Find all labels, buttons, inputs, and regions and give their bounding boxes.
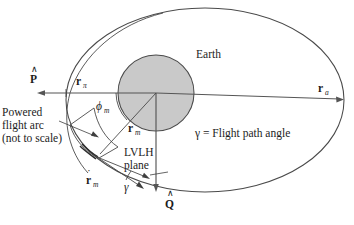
p-hat-label: P (30, 73, 37, 85)
lvlh-line1: LVLH (124, 146, 154, 158)
rdot-m-label: r (86, 174, 91, 186)
flight-path-angle-legend: γ = Flight path angle (194, 127, 290, 140)
powered-flight-line2: flight arc (2, 119, 44, 132)
r-apogee-label: r (318, 82, 323, 94)
apogee-arrowhead (336, 97, 344, 103)
perigee-arrowhead (37, 90, 45, 96)
q-hat-caret: ∧ (167, 188, 174, 198)
lvlh-leader-line (150, 172, 168, 175)
rdot-m-subscript: m (93, 180, 99, 189)
q-hat-label: Q (165, 198, 174, 210)
phi-m-subscript: m (104, 106, 110, 115)
powered-arc-leader-arrowhead (91, 131, 99, 137)
diagram-svg: Earth ∧ P ∧ Q r π r a r m ˙ r m ϕ m γ Po… (0, 0, 354, 225)
orbital-geometry-figure: Earth ∧ P ∧ Q r π r a r m ˙ r m ϕ m γ Po… (0, 0, 354, 225)
powered-flight-arc-2 (80, 146, 96, 159)
earth-label: Earth (196, 48, 221, 60)
powered-flight-line1: Powered (2, 106, 42, 118)
r-perigee-subscript: π (83, 81, 87, 90)
powered-flight-line3: (not to scale) (2, 132, 62, 145)
lvlh-plane-arrowhead (142, 173, 150, 179)
gamma-angle-label: γ (124, 181, 129, 194)
r-m-label: r (128, 122, 133, 134)
r-m-subscript: m (135, 128, 141, 137)
phi-m-label: ϕ (96, 100, 102, 113)
r-apogee-subscript: a (325, 88, 329, 97)
powered-arc-leader-line (59, 121, 95, 136)
r-perigee-label: r (76, 75, 81, 87)
powered-segment-start-edge (70, 108, 94, 125)
lvlh-line2: plane (124, 159, 149, 172)
q-hat-arrowhead (153, 184, 159, 192)
